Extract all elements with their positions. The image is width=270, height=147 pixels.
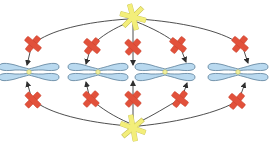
chromosome-3 <box>135 63 195 80</box>
blockers-top <box>20 31 252 59</box>
blocker-x-icon <box>167 86 192 111</box>
blocker-x-icon <box>165 32 190 57</box>
blockers-bottom <box>20 86 249 113</box>
blocker-x-icon <box>227 31 252 56</box>
chromosomes <box>0 63 268 80</box>
blocker-x-icon <box>20 31 45 56</box>
blocker-x-icon <box>20 87 45 112</box>
chromosome-1 <box>0 63 59 80</box>
fiber-top-1 <box>33 19 128 44</box>
blocker-x-icon <box>224 88 249 113</box>
fiber-bottom-1 <box>33 100 128 126</box>
fiber-bottom-5 <box>139 101 237 126</box>
chromosome-4 <box>208 63 268 80</box>
fiber-top-5 <box>139 19 240 44</box>
blocker-x-icon <box>78 86 103 111</box>
bottom-pole-star-icon <box>117 112 150 144</box>
chromosome-2 <box>68 63 128 80</box>
spindle-checkpoint-diagram <box>0 0 270 147</box>
